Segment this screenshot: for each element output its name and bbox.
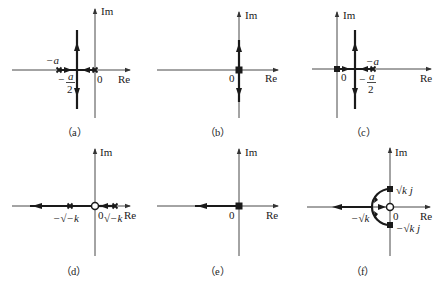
arrow-down-icon (74, 88, 80, 97)
root-locus-figure: Im Re 0 −a − a 2 （a） Im Re 0 （b） Im (0, 0, 443, 288)
re-label: Re (124, 209, 136, 221)
panel-a: Im Re 0 −a − a 2 （a） (12, 5, 130, 138)
caption-c: （c） (351, 127, 376, 138)
re-label: Re (265, 72, 277, 84)
caption-e: （e） (205, 266, 230, 277)
caption-a: （a） (62, 127, 87, 138)
panel-e: Im Re 0 （e） (157, 146, 278, 277)
breakaway-sign: − (359, 73, 365, 85)
arrow-up-icon (74, 42, 80, 51)
arrow-up-icon (352, 42, 358, 51)
lower-pole-label: −√k j (396, 222, 420, 234)
pole-label: −a (46, 54, 59, 66)
re-label: Re (118, 73, 130, 85)
right-pole-label: √−k (104, 212, 123, 224)
double-pole-icon (236, 67, 243, 74)
breakin-label: −√k (351, 212, 370, 224)
breakaway-numerator: a (369, 70, 375, 82)
left-pole-label: −√−k (53, 212, 80, 224)
arrow-left-icon (197, 203, 207, 209)
im-label: Im (245, 146, 258, 158)
origin-label: 0 (341, 71, 347, 83)
panel-b: Im Re 0 （b） (157, 9, 278, 138)
panel-d: Im Re 0 −√−k √−k （d） (12, 146, 136, 277)
upper-pole-label: √k j (396, 184, 413, 196)
arrow-down-icon (236, 88, 242, 97)
arrow-left-icon (82, 67, 90, 73)
pole-icon (387, 186, 393, 192)
origin-label: 0 (97, 73, 103, 85)
im-label: Im (395, 146, 408, 158)
im-label: Im (245, 9, 258, 21)
arrow-left-icon (332, 204, 342, 210)
panel-c: Im Re 0 −a − a 2 （c） (312, 9, 432, 138)
caption-f: （f） (351, 266, 375, 277)
im-label: Im (101, 5, 114, 17)
caption-b: （b） (205, 127, 230, 138)
breakaway-sign: − (58, 73, 64, 85)
caption-d: （d） (61, 266, 86, 277)
re-label: Re (420, 210, 432, 222)
arrow-left-icon (32, 203, 42, 209)
pole-icon (387, 222, 393, 228)
panel-f: Im Re 0 √k j −√k j −√k （f） (307, 146, 432, 277)
arrow-right-icon (378, 204, 386, 210)
breakaway-denominator: 2 (368, 83, 374, 95)
im-label: Im (343, 9, 356, 21)
arrow-down-icon (352, 88, 358, 97)
breakaway-numerator: a (68, 70, 74, 82)
re-label: Re (266, 209, 278, 221)
pole-icon (236, 203, 243, 210)
pole-label: −a (366, 55, 379, 67)
breakaway-denominator: 2 (67, 83, 73, 95)
pole-icon (334, 66, 340, 72)
re-label: Re (420, 72, 432, 84)
origin-label: 0 (229, 209, 235, 221)
origin-label: 0 (393, 210, 399, 222)
arrow-up-icon (236, 43, 242, 52)
im-label: Im (100, 146, 113, 158)
origin-label: 0 (229, 72, 235, 84)
